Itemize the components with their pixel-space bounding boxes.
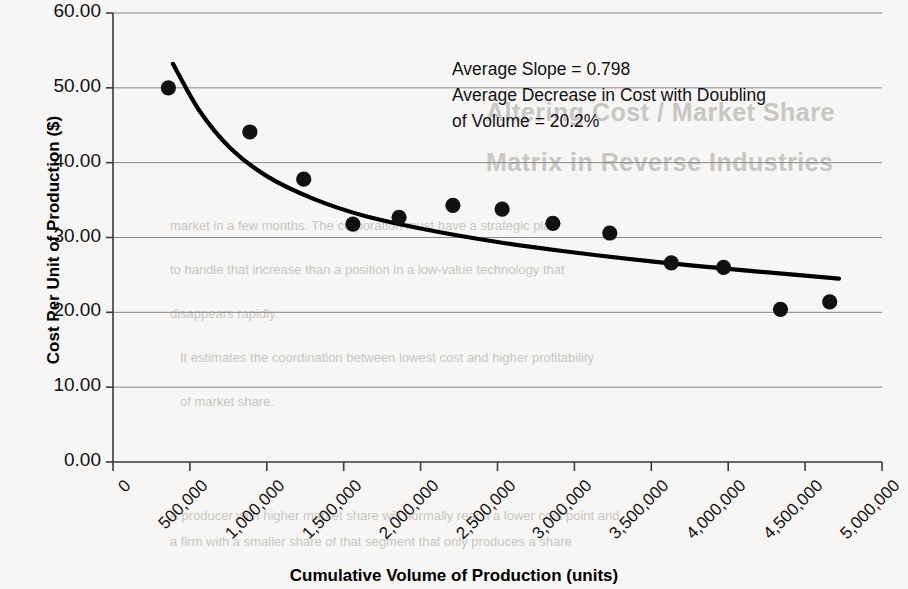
chart-annotation: Average Slope = 0.798 Average Decrease i…: [452, 56, 766, 134]
y-axis-title: Cost Per Unit of Production ($): [44, 90, 64, 390]
data-point: [716, 260, 731, 275]
data-point: [602, 225, 617, 240]
data-point: [495, 201, 510, 216]
annotation-line-2: Average Decrease in Cost with Doubling: [452, 82, 766, 108]
data-point: [242, 124, 257, 139]
data-point: [773, 302, 788, 317]
experience-curve-chart: 0.0010.0020.0030.0040.0050.0060.00 0500,…: [0, 0, 908, 589]
y-tick-label: 60.00: [9, 0, 101, 22]
data-point: [345, 216, 360, 231]
data-point: [445, 198, 460, 213]
data-point: [161, 80, 176, 95]
data-point: [391, 210, 406, 225]
data-point: [545, 216, 560, 231]
annotation-line-1: Average Slope = 0.798: [452, 56, 766, 82]
x-axis-title: Cumulative Volume of Production (units): [0, 566, 908, 586]
annotation-line-3: of Volume = 20.2%: [452, 108, 766, 134]
y-tick-label: 0.00: [9, 449, 101, 471]
data-point: [664, 255, 679, 270]
data-point: [822, 294, 837, 309]
data-point: [296, 172, 311, 187]
